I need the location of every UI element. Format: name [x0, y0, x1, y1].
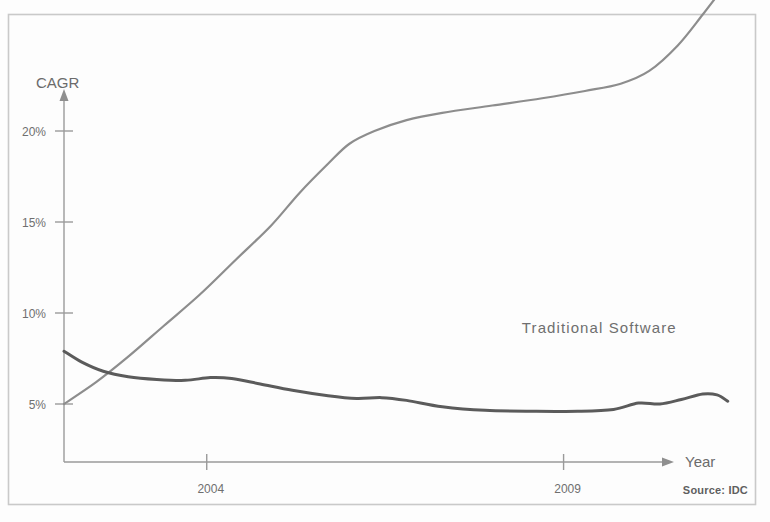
y-tick-label: 10% — [22, 307, 46, 321]
figure-border — [9, 15, 756, 505]
x-axis: 20042009 — [64, 454, 674, 496]
x-axis-arrow-icon — [662, 458, 674, 467]
y-axis: 5%10%15%20% — [22, 89, 73, 462]
series-label-layer: Software-as-a-ServiceTraditional Softwar… — [481, 0, 676, 336]
chart-figure: 5%10%15%20% 20042009 CAGR Year Software-… — [0, 0, 770, 522]
series-label: Traditional Software — [522, 319, 677, 336]
x-axis-ticks: 20042009 — [197, 454, 581, 496]
y-axis-ticks: 5%10%15%20% — [22, 125, 73, 412]
x-axis-title: Year — [685, 453, 715, 470]
y-tick-label: 15% — [22, 216, 46, 230]
y-tick-label: 5% — [29, 398, 47, 412]
source-note: Source: IDC — [683, 484, 748, 496]
x-tick-label: 2004 — [197, 482, 224, 496]
chart-canvas: 5%10%15%20% 20042009 CAGR Year Software-… — [0, 0, 770, 522]
y-axis-title: CAGR — [36, 74, 80, 91]
y-tick-label: 20% — [22, 125, 46, 139]
series-line-software-as-a-service — [64, 0, 738, 404]
series-line-traditional-software — [64, 351, 728, 411]
series-layer — [64, 0, 738, 411]
x-tick-label: 2009 — [554, 482, 581, 496]
